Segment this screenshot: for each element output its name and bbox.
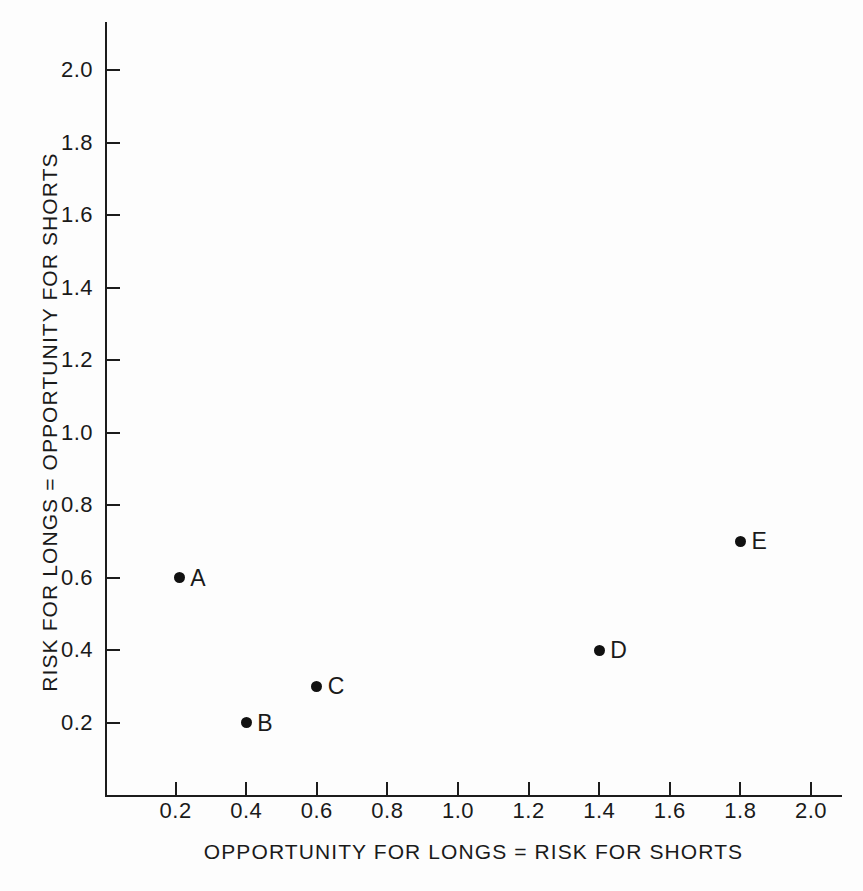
data-point-label-b: B (257, 711, 273, 734)
x-axis-title: OPPORTUNITY FOR LONGS = RISK FOR SHORTS (105, 840, 842, 864)
x-axis-tick (245, 782, 247, 795)
data-point-d[interactable] (594, 645, 605, 656)
y-axis-tick (107, 69, 120, 71)
y-axis-tick (107, 504, 120, 506)
x-axis-tick-label: 1.4 (564, 800, 634, 822)
x-axis-tick (739, 782, 741, 795)
x-axis-tick (175, 782, 177, 795)
y-axis-tick (107, 214, 120, 216)
x-axis-tick (386, 782, 388, 795)
y-axis-tick (107, 649, 120, 651)
y-axis-tick (107, 577, 120, 579)
x-axis-tick (810, 782, 812, 795)
scatter-plot-figure: 0.20.40.60.81.01.21.41.61.82.0 0.20.40.6… (0, 0, 863, 891)
data-point-a[interactable] (174, 572, 185, 583)
data-point-label-c: C (328, 675, 345, 698)
data-point-label-d: D (610, 639, 627, 662)
x-axis-tick-label: 1.6 (635, 800, 705, 822)
y-axis-title: RISK FOR LONGS = OPPORTUNITY FOR SHORTS (38, 27, 62, 817)
data-point-c[interactable] (311, 681, 322, 692)
y-axis-tick (107, 432, 120, 434)
x-axis-tick-label: 0.6 (282, 800, 352, 822)
data-point-label-a: A (190, 566, 206, 589)
x-axis-tick-label: 0.4 (211, 800, 281, 822)
x-axis-tick-label: 0.8 (352, 800, 422, 822)
x-axis-tick (316, 782, 318, 795)
x-axis-tick (457, 782, 459, 795)
y-axis-tick (107, 359, 120, 361)
y-axis-tick (107, 287, 120, 289)
data-point-e[interactable] (735, 536, 746, 547)
y-axis-tick (107, 142, 120, 144)
y-axis-tick (107, 722, 120, 724)
x-axis-tick (528, 782, 530, 795)
data-point-label-e: E (751, 530, 767, 553)
x-axis-tick-label: 2.0 (776, 800, 846, 822)
x-axis-tick-label: 1.0 (423, 800, 493, 822)
x-axis-tick-label: 1.2 (494, 800, 564, 822)
y-axis-line (105, 22, 107, 797)
x-axis-line (105, 795, 842, 797)
x-axis-tick (669, 782, 671, 795)
x-axis-tick-label: 0.2 (141, 800, 211, 822)
x-axis-tick (598, 782, 600, 795)
x-axis-tick-label: 1.8 (705, 800, 775, 822)
data-point-b[interactable] (241, 717, 252, 728)
